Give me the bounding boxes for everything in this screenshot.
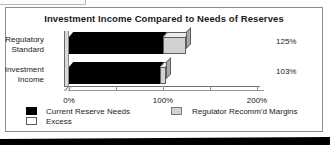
bar-side-face-regulator-margins [186,27,191,49]
category-label-line2: Standard [0,45,44,55]
category-label-regulatory-standard: Regulatory Standard [0,35,44,54]
bar-segment-regulator-margins [163,37,186,54]
legend-swatch-regulator-margins [171,107,182,115]
category-label-line1: Regulatory [0,35,44,45]
x-tick-label-200: 200% [237,96,277,105]
x-axis-tick-150 [210,86,211,91]
x-tick-label-100: 100% [143,96,183,105]
chart-title: Investment Income Compared to Needs of R… [6,13,322,24]
category-label-investment-income: Investment Income [0,65,44,84]
value-label-investment-income: 103% [276,67,296,76]
legend-label-current-reserve-needs: Current Reserve Needs [46,107,130,116]
legend-swatch-excess [26,117,37,125]
category-label-line1: Investment [0,65,44,75]
value-label-regulatory-standard: 125% [276,37,296,46]
chart-container: Investment Income Compared to Needs of R… [5,7,323,132]
category-label-line2: Income [0,75,44,85]
x-axis-tick-50 [116,86,117,91]
x-axis-tick-200 [257,86,258,91]
bar-side-face-regulator-margins [166,57,171,79]
y-axis-line [64,31,65,87]
bar-top-face-current-reserve-needs [69,32,167,37]
x-axis-line-back [64,86,260,87]
bar-top-face-current-reserve-needs [69,62,164,67]
plot-area [64,31,260,93]
legend-swatch-current-reserve-needs [26,107,37,115]
bottom-black-band [0,137,330,145]
bar-segment-current-reserve-needs [69,37,163,54]
cropped-top-element [0,0,86,5]
x-axis-line-front [68,90,264,91]
legend-label-excess: Excess [46,117,72,126]
x-axis-tick-100 [163,86,164,91]
x-axis-tick-0 [69,86,70,91]
bar-segment-current-reserve-needs [69,67,160,84]
x-tick-label-0: 0% [49,96,89,105]
legend-label-regulator-margins: Regulator Recomm'd Margins [192,107,298,116]
chart-legend: Current Reserve Needs Excess Regulator R… [26,106,311,128]
